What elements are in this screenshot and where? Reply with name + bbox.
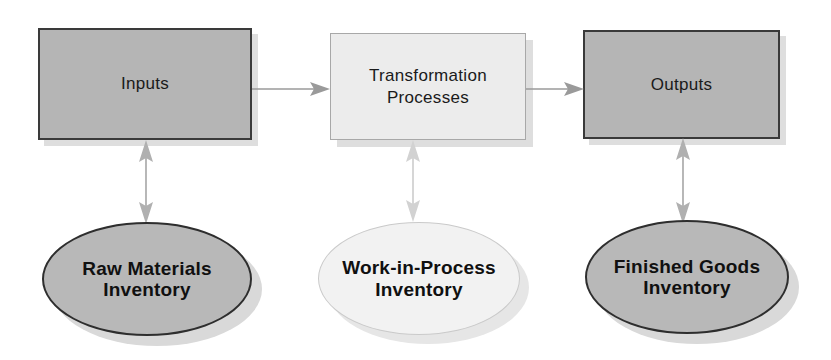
connector-outputs-to-finished-goods bbox=[670, 138, 696, 224]
connector-transformation-to-work-in-process bbox=[400, 140, 426, 222]
process-box-transformation-processes-label: Transformation Processes bbox=[369, 65, 487, 108]
inventory-ellipse-work-in-process[interactable]: Work-in-Process Inventory bbox=[318, 222, 520, 335]
inventory-ellipse-finished-goods-label: Finished Goods Inventory bbox=[614, 256, 760, 299]
diagram-canvas: Inputs Transformation Processes Outputs bbox=[0, 0, 831, 360]
process-box-inputs[interactable]: Inputs bbox=[38, 28, 252, 140]
process-box-outputs[interactable]: Outputs bbox=[583, 30, 780, 139]
inventory-ellipse-work-in-process-label: Work-in-Process Inventory bbox=[342, 257, 496, 300]
connector-inputs-to-raw-materials bbox=[133, 140, 159, 224]
connector-transformation-to-outputs bbox=[526, 76, 586, 102]
inventory-ellipse-finished-goods[interactable]: Finished Goods Inventory bbox=[585, 220, 789, 334]
process-box-inputs-label: Inputs bbox=[121, 73, 169, 94]
process-box-transformation-processes[interactable]: Transformation Processes bbox=[330, 33, 526, 140]
process-box-outputs-label: Outputs bbox=[651, 74, 713, 95]
inventory-ellipse-raw-materials-label: Raw Materials Inventory bbox=[82, 258, 211, 301]
connector-inputs-to-transformation bbox=[252, 76, 332, 102]
inventory-ellipse-raw-materials[interactable]: Raw Materials Inventory bbox=[42, 222, 252, 336]
